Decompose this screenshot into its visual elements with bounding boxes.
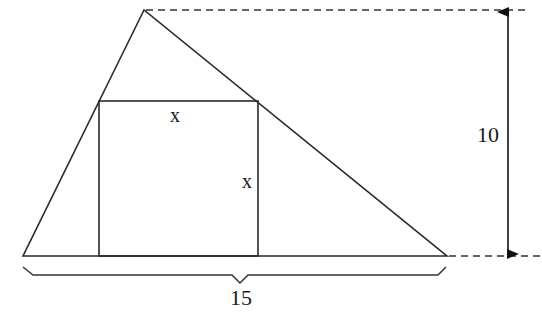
base-label: 15 [230, 285, 252, 310]
triangle [23, 10, 447, 256]
height-label: 10 [477, 122, 499, 147]
base-brace [23, 267, 446, 283]
diagram-canvas: x x 10 15 [0, 0, 542, 322]
square-side-label: x [242, 170, 252, 192]
diagram-svg: x x 10 15 [0, 0, 542, 322]
square-top-label: x [170, 104, 180, 126]
